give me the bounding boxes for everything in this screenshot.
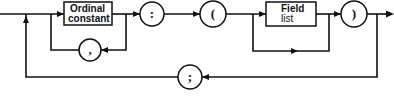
arrow-right-icon bbox=[291, 48, 298, 54]
arrow-up-icon bbox=[23, 16, 29, 23]
node-colon: : bbox=[140, 2, 164, 26]
arrow-right-icon bbox=[193, 11, 200, 17]
arrow-right-icon bbox=[386, 11, 394, 18]
node-close-paren: ) bbox=[341, 1, 367, 27]
arrow-right-icon bbox=[133, 11, 140, 17]
arrow-right-icon bbox=[259, 11, 266, 17]
arrow-left-icon bbox=[101, 47, 108, 53]
node-comma: , bbox=[79, 39, 101, 61]
node-label: constant bbox=[68, 13, 110, 24]
node-symbol: : bbox=[150, 6, 154, 21]
node-label: list bbox=[281, 13, 293, 24]
node-ordinal-constant: Ordinal constant ' bbox=[64, 2, 112, 25]
node-symbol: , bbox=[88, 42, 91, 57]
node-symbol: ) bbox=[352, 6, 356, 21]
node-open-paren: ( bbox=[200, 1, 226, 27]
node-semicolon: ; bbox=[178, 65, 202, 89]
arrow-left-icon bbox=[202, 74, 209, 80]
node-field-list: Field list bbox=[266, 2, 316, 26]
arrow-right-icon bbox=[334, 11, 341, 17]
syntax-diagram: Ordinal constant ' , : ( Field list ) ; bbox=[0, 0, 394, 96]
node-symbol: ; bbox=[188, 69, 192, 84]
node-symbol: ( bbox=[211, 6, 215, 21]
arrow-right-icon bbox=[57, 11, 64, 17]
